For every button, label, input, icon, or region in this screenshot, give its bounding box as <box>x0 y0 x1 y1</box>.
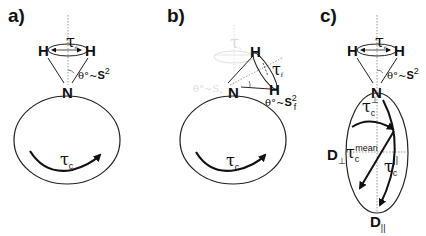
panel-b: b) τs θ°~Ss τf H H N θ°~S2f τc <box>167 5 297 184</box>
panel-c-d-perp: D⊥ <box>327 146 346 166</box>
panel-a-angle-arc <box>68 70 74 73</box>
panel-a-tau-c: τc <box>60 150 74 171</box>
panel-b-bond-right <box>241 87 270 89</box>
panel-b-atom-n: N <box>228 84 239 101</box>
panel-a: a) τe H H N θ°~S2 τc <box>8 5 120 184</box>
panel-a-label: a) <box>8 5 25 26</box>
panel-a-order-param: θ°~S2 <box>78 66 110 81</box>
panel-a-bond-left <box>48 58 64 83</box>
panel-c-tau-parallel: τc|| <box>384 155 398 178</box>
panel-c-atom-h-right: H <box>394 42 405 59</box>
panel-c-order-param: θ°~S2 <box>387 66 419 81</box>
panel-c-d-parallel: D|| <box>370 213 386 233</box>
panel-a-atom-n: N <box>62 84 73 101</box>
panel-c-tau-e: τe <box>375 32 387 51</box>
panel-b-tau-f: τf <box>272 60 284 79</box>
svg-text:θ°~Ss: θ°~Ss <box>193 83 222 95</box>
panel-c-label: c) <box>320 5 337 26</box>
panel-b-atom-h-top: H <box>250 43 261 60</box>
panel-c-atom-h-left: H <box>347 42 358 59</box>
svg-text:τs: τs <box>230 33 242 52</box>
panel-a-atom-h-left: H <box>38 42 49 59</box>
panel-a-tau-e: τe <box>66 32 78 51</box>
panel-c-angle-arc <box>377 70 383 73</box>
panel-c: c) τe H H N θ°~S2 τc⊥ τcmean τc|| D⊥ D|| <box>320 5 419 233</box>
panel-c-bond-left <box>357 58 373 83</box>
panel-c-perp-arrow <box>352 121 393 129</box>
panel-b-label: b) <box>167 5 185 26</box>
panel-b-ghost-orientation: τs θ°~Ss <box>193 25 254 95</box>
panel-b-bond-top <box>228 57 252 83</box>
panel-a-atom-h-right: H <box>85 42 96 59</box>
diagram-canvas: a) τe H H N θ°~S2 τc b) τs θ°~Ss <box>0 0 426 236</box>
panel-b-tau-c: τc <box>226 151 240 172</box>
panel-b-angle-arc <box>249 81 250 87</box>
panel-b-atom-h-right: H <box>269 81 280 98</box>
panel-c-tau-mean: τcmean <box>346 143 378 164</box>
